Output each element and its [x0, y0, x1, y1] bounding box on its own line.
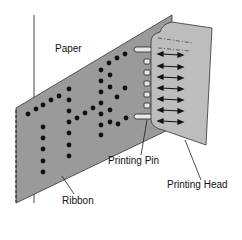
printing-head-label: Printing Head — [167, 180, 228, 190]
head-leader — [185, 140, 201, 180]
ribbon-label: Ribbon — [62, 196, 94, 206]
paper-label: Paper — [55, 44, 82, 54]
printing-pin-label: Printing Pin — [108, 156, 159, 166]
ribbon-leader — [62, 176, 74, 194]
printing-head — [151, 22, 212, 145]
